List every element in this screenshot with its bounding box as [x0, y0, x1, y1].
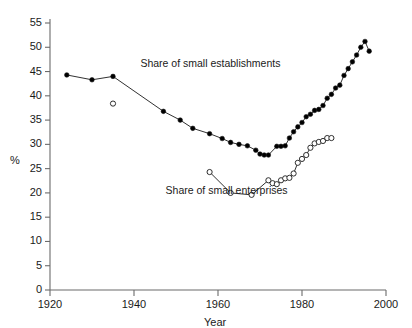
data-point-filled — [350, 60, 355, 65]
y-axis-tick-label: 10 — [8, 235, 42, 246]
data-point-filled — [329, 92, 334, 97]
x-axis-tick-label: 2000 — [361, 299, 411, 310]
data-point-filled — [317, 107, 322, 112]
data-point-filled — [178, 118, 183, 123]
y-axis-tick-label: 5 — [8, 260, 42, 271]
y-axis-tick-label: 45 — [8, 66, 42, 77]
x-axis-tick-label: 1940 — [109, 299, 159, 310]
data-point-filled — [245, 144, 250, 149]
data-point-filled — [363, 39, 368, 44]
data-point-filled — [367, 49, 372, 54]
data-point-open — [329, 135, 334, 140]
y-axis-tick-label: 35 — [8, 114, 42, 125]
x-axis-tick-label: 1920 — [25, 299, 75, 310]
y-axis-tick-label: 20 — [8, 187, 42, 198]
data-point-filled — [338, 83, 343, 88]
y-axis-tick-label: 30 — [8, 138, 42, 149]
data-point-filled — [258, 152, 263, 157]
data-point-filled — [266, 153, 271, 158]
data-point-open — [291, 171, 296, 176]
data-point-open — [304, 152, 309, 157]
data-point-filled — [279, 144, 284, 149]
data-point-filled — [312, 108, 317, 113]
data-point-filled — [111, 74, 116, 79]
series-annotation-1: Share of small establishments — [140, 58, 280, 69]
data-point-filled — [287, 136, 292, 141]
data-point-filled — [359, 45, 364, 50]
data-point-filled — [254, 148, 259, 153]
x-axis-title: Year — [204, 317, 226, 328]
data-point-filled — [308, 112, 313, 117]
x-axis-tick-label: 1960 — [193, 299, 243, 310]
x-axis-tick-label: 1980 — [277, 299, 327, 310]
data-point-filled — [283, 144, 288, 149]
y-axis-title: % — [10, 155, 20, 166]
data-point-filled — [300, 120, 305, 125]
data-point-open — [308, 145, 313, 150]
y-axis-tick-label: 55 — [8, 17, 42, 28]
data-point-filled — [342, 73, 347, 78]
data-point-filled — [237, 142, 242, 147]
data-point-open — [287, 175, 292, 180]
data-point-filled — [161, 109, 166, 114]
data-point-filled — [354, 53, 359, 58]
data-point-filled — [228, 140, 233, 145]
data-point-filled — [325, 96, 330, 101]
y-axis-tick-label: 15 — [8, 211, 42, 222]
data-point-filled — [291, 129, 296, 134]
data-point-open — [299, 156, 304, 161]
series-2 — [110, 101, 334, 197]
data-point-filled — [296, 125, 301, 130]
data-point-filled — [65, 73, 70, 78]
y-axis-tick-label: 40 — [8, 90, 42, 101]
y-axis-tick-label: 50 — [8, 41, 42, 52]
data-point-filled — [304, 114, 309, 119]
series-annotation-2: Share of small enterprises — [166, 185, 288, 196]
data-point-filled — [321, 103, 326, 108]
data-point-filled — [207, 131, 212, 136]
data-point-open — [110, 101, 115, 106]
data-point-open — [295, 160, 300, 165]
y-axis-tick-label: 0 — [8, 284, 42, 295]
data-point-filled — [220, 136, 225, 141]
data-point-open — [207, 169, 212, 174]
data-point-filled — [90, 78, 95, 83]
data-point-filled — [346, 66, 351, 71]
data-point-filled — [191, 126, 196, 131]
data-point-filled — [333, 86, 338, 91]
